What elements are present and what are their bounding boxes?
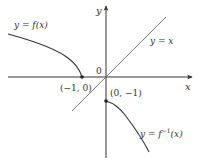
identity-line-label: y = x	[149, 36, 173, 46]
f-curve	[8, 34, 82, 77]
origin-label: 0	[96, 66, 102, 76]
point-finv-label: (0, −1)	[110, 88, 142, 98]
point-0-minus1	[104, 99, 108, 103]
y-axis-label: y	[95, 5, 102, 16]
f-inverse-label-prefix: y = f	[139, 129, 163, 139]
f-inverse-label-suffix: (x)	[171, 129, 184, 139]
point-f-label: (−1, 0)	[60, 83, 92, 93]
point-minus1-0	[80, 75, 84, 79]
f-inverse-label-sup: −1	[162, 127, 171, 134]
x-axis-label: x	[185, 81, 191, 92]
inverse-function-diagram: y x 0 y = f(x) y = x (−1, 0) (0, −1) y =…	[0, 0, 199, 163]
f-inverse-curve	[106, 101, 149, 152]
f-inverse-curve-label: y = f−1(x)	[139, 127, 183, 139]
f-curve-label: y = f(x)	[13, 20, 48, 30]
